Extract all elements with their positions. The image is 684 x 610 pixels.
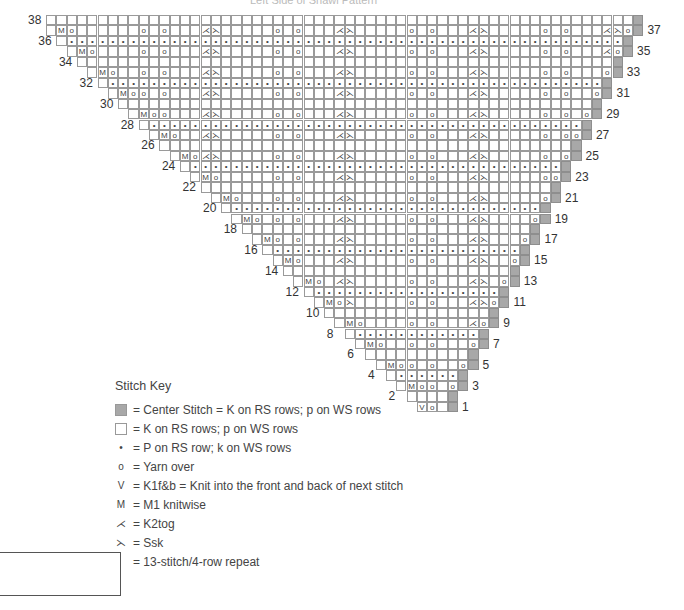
stitch-cell: • (180, 120, 190, 130)
stitch-cell (437, 109, 447, 119)
stitch-cell (499, 224, 509, 234)
stitch-cell (118, 46, 128, 56)
stitch-cell: V (417, 402, 427, 412)
stitch-cell (190, 67, 200, 77)
stitch-cell (304, 140, 314, 150)
stitch-cell: • (417, 120, 427, 130)
stitch-cell (427, 391, 437, 401)
stitch-cell (149, 46, 159, 56)
stitch-cell (355, 297, 365, 307)
stitch-cell (324, 308, 334, 318)
stitch-cell (437, 25, 447, 35)
stitch-cell: • (201, 36, 211, 46)
stitch-cell (396, 214, 406, 224)
stitch-cell (365, 214, 375, 224)
stitch-cell (139, 15, 149, 25)
stitch-cell (458, 234, 468, 244)
stitch-cell (231, 46, 241, 56)
stitch-cell (396, 255, 406, 265)
stitch-cell: o (139, 46, 149, 56)
stitch-cell (231, 151, 241, 161)
stitch-cell (314, 25, 324, 35)
stitch-cell (427, 224, 437, 234)
stitch-cell: • (437, 203, 447, 213)
stitch-cell (221, 15, 231, 25)
stitch-cell (448, 349, 458, 359)
stitch-cell: o (427, 88, 437, 98)
stitch-cell: o (448, 381, 458, 391)
stitch-cell: o (561, 109, 571, 119)
stitch-cell: M (365, 339, 375, 349)
stitch-cell: • (489, 287, 499, 297)
stitch-cell: • (561, 36, 571, 46)
stitch-cell (437, 172, 447, 182)
stitch-cell (448, 99, 458, 109)
stitch-cell (499, 151, 509, 161)
stitch-cell (355, 193, 365, 203)
stitch-cell: • (242, 120, 252, 130)
stitch-cell (417, 339, 427, 349)
stitch-cell: • (221, 36, 231, 46)
stitch-cell: o (427, 214, 437, 224)
stitch-cell (334, 308, 344, 318)
stitch-cell: • (304, 203, 314, 213)
stitch-cell (365, 266, 375, 276)
stitch-cell: • (98, 36, 108, 46)
stitch-cell (437, 57, 447, 67)
stitch-cell (314, 172, 324, 182)
stitch-cell (324, 67, 334, 77)
stitch-cell (510, 182, 520, 192)
stitch-cell (417, 140, 427, 150)
stitch-cell: • (407, 245, 417, 255)
stitch-cell: M (180, 151, 190, 161)
stitch-cell (231, 182, 241, 192)
stitch-cell (386, 88, 396, 98)
stitch-cell (448, 360, 458, 370)
stitch-cell: • (396, 36, 406, 46)
stitch-cell: • (108, 78, 118, 88)
stitch-cell: • (242, 203, 252, 213)
center-stitch-cell (633, 25, 643, 35)
stitch-cell (448, 266, 458, 276)
stitch-cell (283, 109, 293, 119)
row-number-35: 35 (637, 45, 650, 57)
stitch-cell (520, 172, 530, 182)
stitch-cell (314, 109, 324, 119)
stitch-cell: o (540, 46, 550, 56)
stitch-cell (304, 287, 314, 297)
stitch-cell: • (427, 78, 437, 88)
stitch-cell (365, 297, 375, 307)
stitch-cell (283, 140, 293, 150)
stitch-cell: • (376, 120, 386, 130)
stitch-cell: • (355, 287, 365, 297)
stitch-cell: • (396, 161, 406, 171)
stitch-cell: • (190, 78, 200, 88)
stitch-cell: ⋋ (345, 151, 355, 161)
stitch-cell (407, 266, 417, 276)
stitch-cell: • (427, 120, 437, 130)
stitch-cell (551, 67, 561, 77)
stitch-cell (540, 57, 550, 67)
stitch-cell (262, 151, 272, 161)
stitch-cell (355, 172, 365, 182)
stitch-cell (448, 224, 458, 234)
stitch-cell: • (159, 78, 169, 88)
stitch-cell: ⋌ (201, 88, 211, 98)
center-stitch-cell (520, 245, 530, 255)
stitch-cell (324, 88, 334, 98)
stitch-cell (396, 151, 406, 161)
stitch-cell (417, 88, 427, 98)
stitch-cell (417, 255, 427, 265)
stitch-cell: o (293, 130, 303, 140)
stitch-cell: • (582, 78, 592, 88)
stitch-cell: • (304, 120, 314, 130)
stitch-cell: • (458, 203, 468, 213)
key-item-kfb: V = K1f&b = Knit into the front and back… (115, 479, 403, 493)
stitch-cell: ⋌ (468, 234, 478, 244)
row-number-27: 27 (596, 129, 609, 141)
stitch-cell (458, 25, 468, 35)
stitch-cell (417, 224, 427, 234)
stitch-cell (314, 88, 324, 98)
stitch-cell (221, 109, 231, 119)
stitch-cell: M (262, 234, 272, 244)
